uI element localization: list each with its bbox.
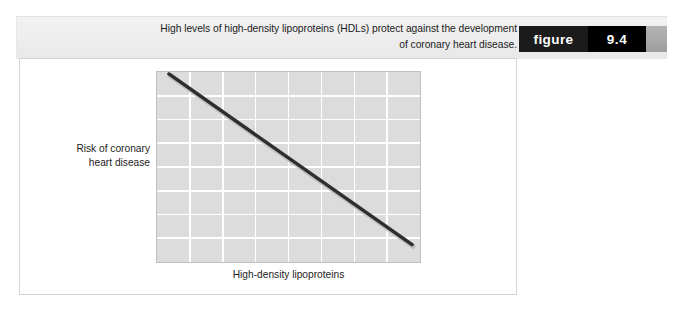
figure-tag: figure 9.4 (519, 26, 667, 52)
chart-trend-line (157, 72, 420, 262)
figure-panel: High levels of high-density lipoproteins… (0, 0, 682, 314)
figure-word-label: figure (519, 26, 588, 52)
line-chart: Risk of coronary heart disease High-dens… (20, 59, 518, 296)
chart-x-axis-label: High-density lipoproteins (156, 268, 421, 282)
figure-tab-end-decoration (646, 26, 667, 52)
y-axis-label-line-2: heart disease (54, 156, 150, 170)
figure-caption: High levels of high-density lipoproteins… (25, 21, 517, 52)
caption-line-1: High levels of high-density lipoproteins… (25, 21, 517, 37)
figure-number-label: 9.4 (588, 26, 646, 52)
figure-content-box: Risk of coronary heart disease High-dens… (19, 58, 517, 295)
caption-line-2: of coronary heart disease. (25, 37, 517, 53)
y-axis-label-line-1: Risk of coronary (54, 142, 150, 156)
chart-y-axis-label: Risk of coronary heart disease (54, 142, 150, 170)
chart-plot-area (156, 71, 421, 263)
